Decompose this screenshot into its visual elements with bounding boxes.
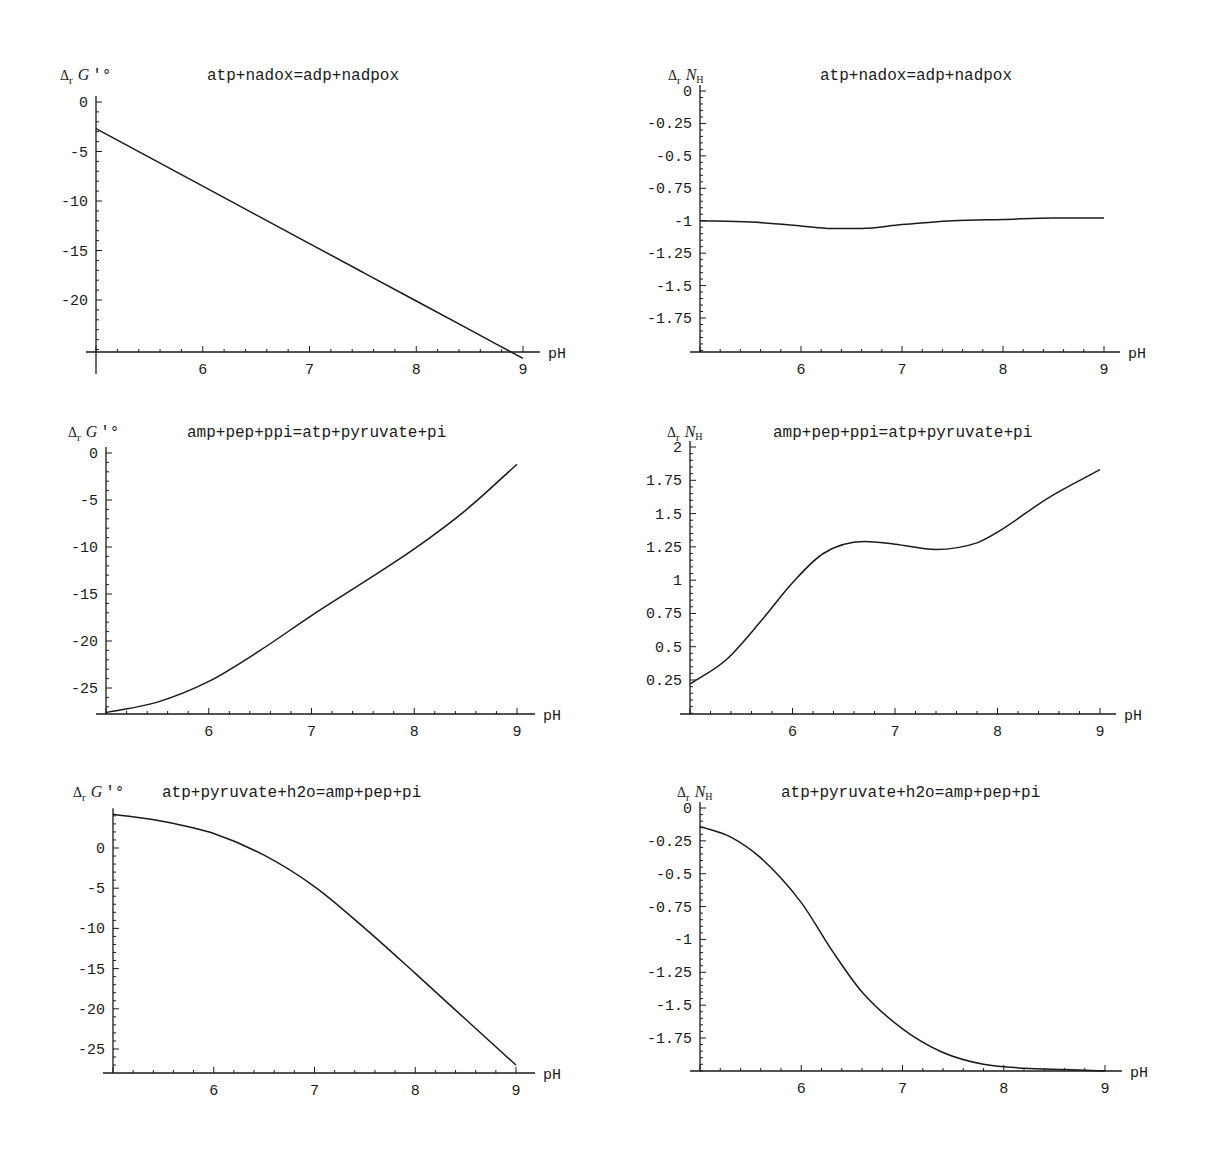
x-tick-label: 8 [410, 724, 419, 741]
y-tick-label: 0 [79, 95, 88, 112]
y-tick-label: 1.5 [655, 507, 682, 524]
data-curve [96, 129, 523, 359]
x-axis-label: pH [1130, 1065, 1148, 1082]
x-axis-label: pH [548, 346, 566, 363]
y-axis-label: ΔrNH [677, 783, 713, 803]
data-curve [106, 464, 517, 712]
x-axis-label: pH [543, 1067, 561, 1084]
chart-panel-2: 0-0.25-0.5-0.75-1-1.25-1.5-1.756789pHatp… [647, 66, 1146, 379]
chart-panel-3: 0-5-10-15-20-256789pHamp+pep+ppi=atp+pyr… [68, 423, 561, 741]
y-tick-label: 1 [673, 573, 682, 590]
y-tick-label: -0.75 [647, 900, 692, 917]
x-axis-label: pH [1124, 708, 1142, 725]
chart-panel-5: 0-5-10-15-20-256789pHatp+pyruvate+h2o=am… [73, 783, 561, 1100]
y-tick-label: -1.25 [647, 965, 692, 982]
chart-title: atp+nadox=adp+nadpox [207, 67, 399, 85]
y-tick-label: -1.5 [656, 279, 692, 296]
y-tick-label: -1.5 [656, 998, 692, 1015]
x-tick-label: 8 [412, 362, 421, 379]
x-tick-label: 7 [307, 724, 316, 741]
y-tick-label: -25 [71, 681, 98, 698]
x-tick-label: 9 [1095, 724, 1104, 741]
y-tick-label: -20 [78, 1002, 105, 1019]
chart-title: amp+pep+ppi=atp+pyruvate+pi [187, 424, 446, 442]
y-tick-label: 1.75 [646, 473, 682, 490]
chart-panel-6: 0-0.25-0.5-0.75-1-1.25-1.5-1.756789pHatp… [647, 783, 1148, 1098]
y-axis-label: ΔrG'° [73, 783, 124, 803]
x-tick-label: 9 [512, 724, 521, 741]
x-axis-label: pH [1128, 346, 1146, 363]
x-axis-label: pH [543, 708, 561, 725]
x-tick-label: 6 [209, 1083, 218, 1100]
y-tick-label: -0.25 [647, 834, 692, 851]
x-tick-label: 8 [411, 1083, 420, 1100]
y-tick-label: -20 [71, 634, 98, 651]
y-tick-label: -5 [80, 493, 98, 510]
y-tick-label: -10 [61, 194, 88, 211]
y-tick-label: 0 [89, 446, 98, 463]
x-tick-label: 6 [797, 1081, 806, 1098]
y-tick-label: -0.25 [647, 116, 692, 133]
y-tick-label: 0.5 [655, 640, 682, 657]
x-tick-label: 9 [1099, 362, 1108, 379]
y-tick-label: -5 [70, 145, 88, 162]
y-tick-label: -0.5 [656, 149, 692, 166]
x-tick-label: 8 [999, 1081, 1008, 1098]
x-tick-label: 6 [788, 724, 797, 741]
chart-title: atp+nadox=adp+nadpox [820, 67, 1012, 85]
y-tick-label: -15 [71, 587, 98, 604]
y-tick-label: -15 [78, 962, 105, 979]
y-tick-label: 0 [683, 801, 692, 818]
chart-title: atp+pyruvate+h2o=amp+pep+pi [162, 784, 421, 802]
y-tick-label: -20 [61, 293, 88, 310]
y-tick-label: -5 [87, 881, 105, 898]
x-tick-label: 8 [993, 724, 1002, 741]
x-tick-label: 9 [1100, 1081, 1109, 1098]
y-tick-label: -1 [674, 932, 692, 949]
y-tick-label: -1.75 [647, 311, 692, 328]
chart-panel-1: 0-5-10-15-206789pHatp+nadox=adp+nadpoxΔr… [60, 66, 566, 379]
y-tick-label: 0 [96, 841, 105, 858]
x-tick-label: 6 [198, 362, 207, 379]
x-tick-label: 7 [310, 1083, 319, 1100]
y-tick-label: 0 [683, 84, 692, 101]
x-tick-label: 6 [796, 362, 805, 379]
data-curve [690, 470, 1100, 684]
y-tick-label: -1.75 [647, 1031, 692, 1048]
x-tick-label: 7 [890, 724, 899, 741]
y-axis-label: ΔrG'° [60, 66, 111, 86]
chart-title: amp+pep+ppi=atp+pyruvate+pi [773, 424, 1032, 442]
y-tick-label: -10 [71, 540, 98, 557]
x-tick-label: 9 [511, 1083, 520, 1100]
chart-grid: 0-5-10-15-206789pHatp+nadox=adp+nadpoxΔr… [0, 0, 1207, 1155]
y-tick-label: 1.25 [646, 540, 682, 557]
y-tick-label: -10 [78, 921, 105, 938]
chart-panel-4: 21.751.51.2510.750.50.256789pHamp+pep+pp… [646, 423, 1142, 741]
data-curve [113, 814, 516, 1065]
chart-title: atp+pyruvate+h2o=amp+pep+pi [781, 784, 1040, 802]
y-tick-label: -15 [61, 244, 88, 261]
y-axis-label: ΔrG'° [68, 423, 119, 443]
y-tick-label: -0.75 [647, 181, 692, 198]
x-tick-label: 6 [204, 724, 213, 741]
data-curve [700, 826, 1105, 1071]
x-tick-label: 7 [898, 1081, 907, 1098]
x-tick-label: 8 [998, 362, 1007, 379]
x-tick-label: 9 [518, 362, 527, 379]
y-tick-label: -0.5 [656, 867, 692, 884]
y-tick-label: -1 [674, 214, 692, 231]
y-tick-label: -25 [78, 1042, 105, 1059]
y-tick-label: 0.75 [646, 606, 682, 623]
y-axis-label: ΔrNH [668, 66, 704, 86]
x-tick-label: 7 [897, 362, 906, 379]
x-tick-label: 7 [305, 362, 314, 379]
y-tick-label: 0.25 [646, 673, 682, 690]
y-tick-label: -1.25 [647, 246, 692, 263]
data-curve [700, 218, 1104, 228]
